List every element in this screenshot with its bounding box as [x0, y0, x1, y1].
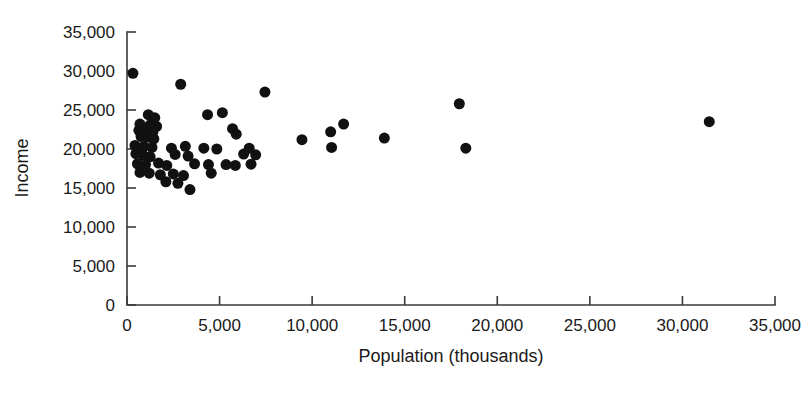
data-point: [202, 109, 213, 120]
data-points: [127, 68, 714, 195]
plot-area: 05,00010,00015,00020,00025,00030,00035,0…: [0, 0, 811, 394]
x-axis-title: Population (thousands): [358, 346, 543, 366]
data-point: [238, 149, 249, 160]
data-point: [379, 133, 390, 144]
data-point: [326, 142, 337, 153]
data-point: [325, 126, 336, 137]
data-point: [338, 119, 349, 130]
data-point: [259, 87, 270, 98]
data-point: [230, 160, 241, 171]
data-point: [704, 116, 715, 127]
y-tick-label: 20,000: [63, 140, 115, 159]
data-point: [460, 143, 471, 154]
x-tick-label: 35,000: [749, 316, 801, 335]
x-tick-label: 25,000: [564, 316, 616, 335]
data-point: [172, 178, 183, 189]
y-axis-tick-labels: 05,00010,00015,00020,00025,00030,00035,0…: [63, 23, 115, 315]
y-axis-title: Income: [12, 138, 32, 197]
x-axis-tick-labels: 05,00010,00015,00020,00025,00030,00035,0…: [122, 316, 801, 335]
data-point: [454, 98, 465, 109]
data-point: [146, 142, 157, 153]
data-point: [217, 107, 228, 118]
data-point: [189, 158, 200, 169]
data-point: [250, 149, 261, 160]
x-tick-label: 30,000: [656, 316, 708, 335]
data-point: [206, 168, 217, 179]
data-point: [184, 184, 195, 195]
x-tick-label: 20,000: [471, 316, 523, 335]
scatter-chart-figure: 05,00010,00015,00020,00025,00030,00035,0…: [0, 0, 811, 394]
x-tick-label: 5,000: [198, 316, 241, 335]
data-point: [170, 149, 181, 160]
data-point: [180, 141, 191, 152]
data-point: [127, 68, 138, 79]
data-point: [160, 176, 171, 187]
y-tick-label: 10,000: [63, 218, 115, 237]
data-point: [198, 143, 209, 154]
x-tick-label: 15,000: [379, 316, 431, 335]
y-tick-label: 15,000: [63, 179, 115, 198]
data-point: [231, 129, 242, 140]
x-tick-label: 10,000: [286, 316, 338, 335]
y-tick-label: 30,000: [63, 62, 115, 81]
y-tick-label: 5,000: [72, 257, 115, 276]
data-point: [246, 159, 257, 170]
y-tick-label: 25,000: [63, 101, 115, 120]
x-tick-label: 0: [122, 316, 131, 335]
y-tick-label: 0: [106, 296, 115, 315]
data-point: [296, 134, 307, 145]
data-point: [211, 144, 222, 155]
data-point: [175, 79, 186, 90]
y-tick-label: 35,000: [63, 23, 115, 42]
data-point: [144, 168, 155, 179]
